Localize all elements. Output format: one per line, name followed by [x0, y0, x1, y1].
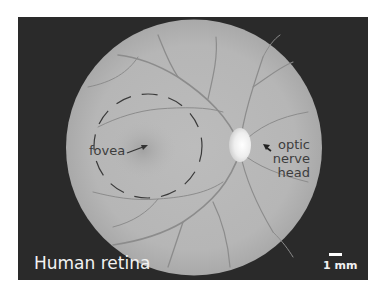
figure-title: Human retina	[34, 253, 150, 273]
scale-bar	[329, 253, 342, 256]
retina-image-panel: fovea optic nerve head Human retina 1 mm	[18, 17, 368, 280]
optic-nerve-head-label-line1: optic	[270, 138, 310, 152]
fovea-label: fovea	[89, 144, 125, 158]
optic-nerve-head-label-line2: nerve	[270, 152, 310, 166]
optic-nerve-head-label: optic nerve head	[270, 138, 310, 180]
optic-nerve-head-label-line3: head	[270, 166, 310, 180]
fundus-photograph	[18, 17, 368, 280]
optic-disc	[229, 128, 251, 162]
scale-bar-label: 1 mm	[323, 259, 357, 272]
